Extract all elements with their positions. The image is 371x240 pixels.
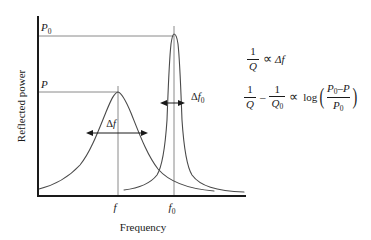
eq1-denominator: Q [247, 61, 259, 73]
equation-2: 1 Q – 1 Q0 ∝ log ( P0–P P0 ) [243, 82, 367, 112]
curve-narrow-resonance [124, 34, 244, 192]
eq1-numerator: 1 [248, 46, 258, 58]
resonance-figure: P0 P f f0 Δf Δf0 Reflected power Frequen… [0, 0, 371, 240]
eq2-minus-operator: – [260, 91, 266, 103]
eq2-argument-denominator: P0 [333, 99, 343, 113]
equation-1: 1 Q ∝ Δf [246, 46, 367, 72]
eq2-term2-numerator: 1 [273, 84, 283, 96]
x-axis-label: Frequency [120, 221, 167, 233]
curve-broad-resonance [39, 92, 214, 191]
ytick-label-p0: P0 [40, 21, 52, 36]
eq2-argument-numerator: P0–P [327, 82, 350, 96]
annotation-delta-f0: Δf0 [191, 91, 205, 105]
eq2-log-function: log [303, 91, 317, 103]
eq2-term1-numerator: 1 [245, 84, 255, 96]
eq2-term2-fraction: 1 Q0 [269, 84, 285, 111]
eq2-term1-fraction: 1 Q [244, 84, 256, 110]
y-axis-label: Reflected power [15, 69, 27, 142]
eq2-term1-denominator: Q [244, 99, 256, 111]
eq2-term2-denominator-sub: 0 [279, 102, 283, 111]
ytick-label-p: P [40, 78, 48, 90]
eq1-fraction: 1 Q [247, 46, 259, 72]
eq1-right-side: Δf [275, 53, 285, 65]
eq2-argument-fraction-bar [327, 97, 350, 98]
annotation-delta-f: Δf [106, 118, 118, 129]
eq2-argument-fraction: P0–P P0 [327, 82, 350, 112]
xtick-label-f: f [113, 201, 118, 213]
eq2-proportional-symbol: ∝ [289, 89, 298, 105]
eq2-close-paren: ) [352, 88, 357, 106]
eq2-open-paren: ( [320, 88, 325, 106]
eq1-proportional-symbol: ∝ [263, 51, 272, 67]
eq2-term2-denominator: Q0 [269, 98, 285, 111]
plot-area: P0 P f f0 Δf Δf0 Reflected power Frequen… [0, 0, 371, 240]
xtick-label-f0: f0 [169, 201, 176, 216]
equation-block: 1 Q ∝ Δf 1 Q – 1 Q0 ∝ log ( P0–P [243, 46, 367, 112]
